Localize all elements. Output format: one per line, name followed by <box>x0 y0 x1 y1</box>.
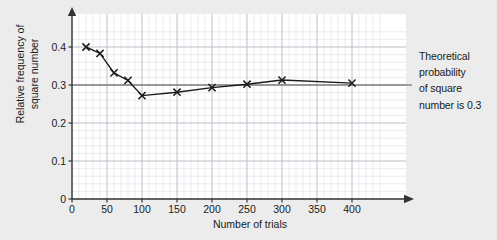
annotation-line-3: of square <box>419 80 497 96</box>
svg-text:0.2: 0.2 <box>51 117 66 129</box>
plot-area-background <box>72 14 406 199</box>
svg-text:350: 350 <box>308 203 326 215</box>
svg-text:0.1: 0.1 <box>51 155 66 167</box>
svg-text:0.4: 0.4 <box>51 41 66 53</box>
svg-text:250: 250 <box>238 203 256 215</box>
svg-text:400: 400 <box>343 203 361 215</box>
y-axis-title: Relative frequency of square number <box>13 4 41 144</box>
theoretical-probability-annotation: Theoretical probability of square number… <box>419 48 497 113</box>
y-axis-title-line2: square number <box>27 4 41 144</box>
svg-text:200: 200 <box>203 203 221 215</box>
x-axis-title: Number of trials <box>170 218 330 230</box>
annotation-line-4: number is 0.3 <box>419 97 497 113</box>
svg-text:100: 100 <box>133 203 151 215</box>
svg-text:50: 50 <box>101 203 113 215</box>
relative-frequency-chart: 050100150200250300350400 00.10.20.30.4 <box>0 0 497 240</box>
svg-text:0.3: 0.3 <box>51 79 66 91</box>
annotation-line-2: probability <box>419 64 497 80</box>
x-axis-title-label: Number of trials <box>213 218 287 230</box>
svg-text:0: 0 <box>69 203 75 215</box>
annotation-line-1: Theoretical <box>419 48 497 64</box>
y-axis-title-line1: Relative frequency of <box>13 4 27 144</box>
svg-text:150: 150 <box>168 203 186 215</box>
svg-text:300: 300 <box>273 203 291 215</box>
svg-text:0: 0 <box>60 193 66 205</box>
